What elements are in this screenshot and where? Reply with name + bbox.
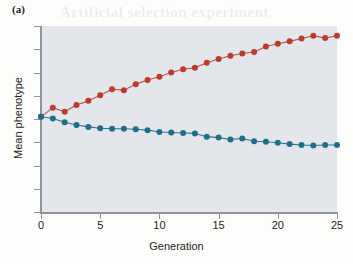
data-point-marker — [145, 127, 151, 133]
data-point-marker — [287, 141, 293, 147]
data-point-marker — [50, 116, 56, 122]
data-point-marker — [322, 142, 328, 148]
data-point-marker — [133, 126, 139, 132]
data-point-marker — [121, 87, 127, 93]
data-point-marker — [180, 130, 186, 136]
data-point-marker — [192, 65, 198, 71]
data-point-marker — [121, 126, 127, 132]
data-point-marker — [239, 136, 245, 142]
data-point-marker — [85, 98, 91, 104]
data-point-marker — [334, 142, 340, 148]
data-point-marker — [62, 119, 68, 125]
data-point-marker — [192, 130, 198, 136]
data-point-marker — [50, 105, 56, 111]
chart-series-layer — [0, 0, 353, 264]
data-point-marker — [227, 136, 233, 142]
data-point-marker — [239, 50, 245, 56]
data-point-marker — [310, 33, 316, 39]
data-point-marker — [298, 36, 304, 42]
data-point-marker — [109, 126, 115, 132]
data-point-marker — [109, 86, 115, 92]
data-point-marker — [275, 140, 281, 146]
data-point-marker — [62, 109, 68, 115]
data-point-marker — [263, 139, 269, 145]
data-point-marker — [74, 102, 80, 108]
data-point-marker — [156, 129, 162, 135]
data-point-marker — [204, 134, 210, 140]
y-axis-title: Mean phenotype — [12, 53, 24, 183]
data-point-marker — [38, 114, 44, 120]
data-point-marker — [97, 92, 103, 98]
data-point-marker — [168, 129, 174, 135]
data-point-marker — [74, 122, 80, 128]
data-point-marker — [85, 124, 91, 130]
data-point-marker — [287, 38, 293, 44]
data-point-marker — [275, 41, 281, 47]
x-axis-title: Generation — [0, 240, 353, 252]
data-point-marker — [227, 53, 233, 59]
series-line — [41, 36, 337, 117]
data-point-marker — [298, 142, 304, 148]
data-point-marker — [97, 125, 103, 131]
data-point-marker — [156, 74, 162, 80]
data-point-marker — [263, 43, 269, 49]
data-series — [38, 33, 340, 120]
data-point-marker — [168, 70, 174, 76]
data-point-marker — [216, 56, 222, 62]
data-point-marker — [310, 143, 316, 149]
series-line — [41, 117, 337, 146]
data-point-marker — [251, 49, 257, 55]
data-point-marker — [322, 35, 328, 41]
data-series — [38, 114, 340, 149]
data-point-marker — [145, 77, 151, 83]
data-point-marker — [133, 81, 139, 87]
figure-panel: Artificial selection experiment divergen… — [0, 0, 353, 264]
data-point-marker — [251, 138, 257, 144]
data-point-marker — [334, 33, 340, 39]
data-point-marker — [204, 60, 210, 66]
data-point-marker — [216, 135, 222, 141]
data-point-marker — [180, 66, 186, 72]
